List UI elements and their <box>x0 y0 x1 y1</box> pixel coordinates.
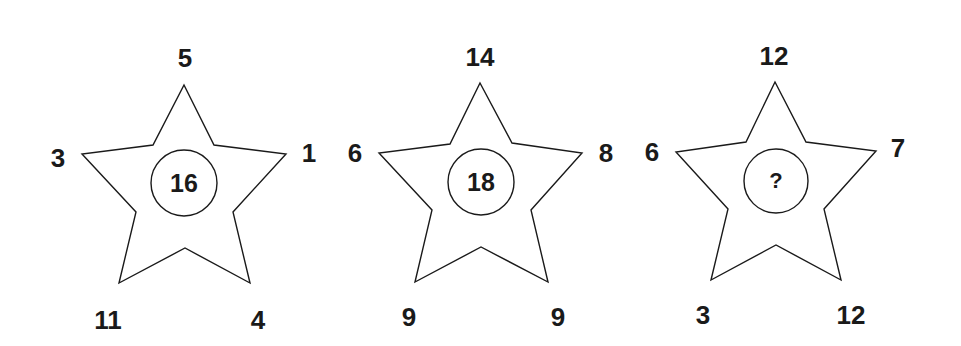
star-2-bottom-right-value: 9 <box>551 302 565 332</box>
star-2-left-value: 6 <box>348 138 362 168</box>
star-3-center-unknown: ? <box>769 168 782 193</box>
star-3-left-value: 6 <box>645 137 659 167</box>
star-2-center-value: 18 <box>467 168 495 196</box>
star-3-top-value: 12 <box>760 41 789 71</box>
star-1-bottom-left-value: 11 <box>94 305 122 335</box>
star-1-top-value: 5 <box>178 43 192 73</box>
star-puzzle-diagram: 16 5 3 1 11 4 18 14 6 8 9 9 ? 12 6 7 3 1… <box>0 0 961 346</box>
star-1-center-value: 16 <box>170 169 198 197</box>
star-2-right-value: 8 <box>599 138 613 168</box>
star-1: 16 5 3 1 11 4 <box>51 43 316 335</box>
star-2-top-value: 14 <box>466 42 495 72</box>
star-1-right-value: 1 <box>302 138 316 168</box>
star-1-bottom-right-value: 4 <box>251 305 266 335</box>
star-2: 18 14 6 8 9 9 <box>348 42 613 332</box>
star-1-left-value: 3 <box>51 143 65 173</box>
star-3: ? 12 6 7 3 12 <box>645 41 905 330</box>
star-2-bottom-left-value: 9 <box>402 302 416 332</box>
star-3-bottom-left-value: 3 <box>696 300 710 330</box>
star-3-right-value: 7 <box>891 133 905 163</box>
star-3-bottom-right-value: 12 <box>837 300 866 330</box>
